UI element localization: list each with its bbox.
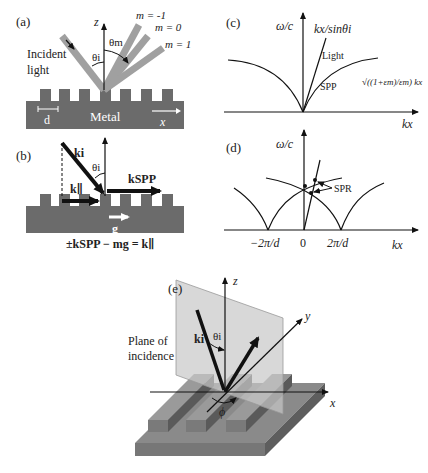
k-i-label: ki [74, 146, 85, 160]
theta-m-label: θm [109, 36, 123, 48]
metal-label: Metal [90, 109, 121, 124]
spp-curve-left [228, 60, 303, 112]
panel-a-label: (a) [16, 14, 30, 29]
diffracted-beams [104, 25, 163, 90]
g-label: g [112, 222, 118, 236]
theta-i-arc-b [95, 173, 105, 178]
order-label-m-1: m = -1 [136, 9, 166, 21]
light-line-equation: kx/sinθi [314, 22, 351, 36]
incident-light-label-1: Incident [27, 47, 67, 61]
tick-zero: 0 [300, 236, 306, 250]
panel-d: (d) SPR ω/c −2π/d 0 2π/d kx [224, 130, 418, 252]
order-label-m0: m = 0 [155, 21, 182, 33]
x-axis-label: x [159, 115, 166, 129]
spr-label: SPR [334, 183, 352, 194]
tick-minus-2pi-d: −2π/d [250, 236, 280, 250]
z-axis-label: z [93, 15, 99, 29]
order-label-m1: m = 1 [165, 38, 191, 50]
k-i-label-e: ki [194, 332, 205, 346]
panel-d-label: (d) [226, 140, 241, 155]
k-parallel-label: k∥ [70, 182, 83, 196]
period-label: d [44, 113, 50, 127]
y-axis-label-e: y [304, 309, 311, 323]
y-axis-label-d: ω/c [276, 137, 294, 151]
figure-canvas: (a) z θi θm Incident light [0, 0, 428, 473]
tick-2pi-d: 2π/d [327, 236, 349, 250]
panel-e: (e) z y x Plane of incidence ki θi ϕ [128, 274, 336, 456]
k-spp-label: kSPP [128, 172, 156, 186]
y-axis-label: ω/c [276, 19, 294, 33]
phi-label: ϕ [219, 405, 225, 419]
grating-coupling-equation: ±kSPP − mg = k∥ [66, 237, 155, 251]
panel-b: (b) ki θi k∥ kSPP g ±kSPP − mg = k∥ [16, 138, 184, 251]
x-axis-label-c: kx [402, 117, 413, 131]
panel-c-label: (c) [226, 15, 240, 30]
spp-dispersion-formula: √((1+εm)/εm) kx [362, 77, 422, 87]
theta-i-label: θi [92, 51, 100, 63]
theta-i-label-e: θi [213, 330, 221, 342]
light-label: Light [322, 50, 344, 61]
spp-label: SPP [320, 81, 337, 92]
incident-light-label-2: light [27, 63, 50, 77]
light-line-d [304, 160, 320, 230]
plane-of-incidence-label-2: incidence [128, 349, 174, 363]
x-axis-label-d: kx [392, 238, 403, 252]
spr-arrow-2 [314, 188, 332, 192]
panel-a: (a) z θi θm Incident light [16, 9, 191, 129]
panel-b-label: (b) [16, 148, 31, 163]
metal-grating-b [26, 194, 184, 233]
spr-point-2 [309, 191, 313, 195]
spp-branch-1 [234, 188, 268, 230]
z-axis-label-e: z [232, 274, 238, 288]
x-axis-label-e: x [329, 396, 336, 410]
panel-c: (c) ω/c kx/sinθi Light SPP √((1+εm)/εm) … [224, 13, 422, 131]
theta-i-label-b: θi [92, 161, 100, 173]
panel-e-label: (e) [168, 281, 182, 296]
spr-point-upper [303, 184, 307, 188]
plane-of-incidence-label-1: Plane of [128, 334, 168, 348]
spr-arrow-1 [318, 182, 332, 188]
spr-point-1 [313, 178, 317, 182]
